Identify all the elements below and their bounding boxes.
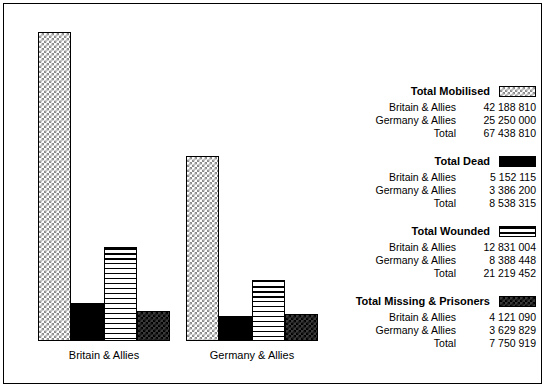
legend-block-total-wounded: Total Wounded Britain & Allies 12 831 00… — [356, 224, 536, 280]
solid-black-swatch — [499, 156, 536, 167]
legend-row-label: Total — [434, 267, 456, 280]
bar-chart-plot-area: Britain & Allies Germany & Allies — [4, 4, 344, 389]
legend-row-label: Britain & Allies — [389, 101, 456, 114]
light-checker-swatch — [499, 86, 536, 97]
legend-row-value: 8 388 448 — [456, 254, 536, 267]
legend-row-label: Britain & Allies — [389, 241, 456, 254]
legend-title: Total Wounded — [412, 225, 490, 237]
legend-row-value: 21 219 452 — [456, 267, 536, 280]
legend-row-label: Germany & Allies — [375, 114, 456, 127]
legend-row-label: Total — [434, 197, 456, 210]
bar-britain-total-wounded — [104, 247, 137, 341]
bar-germany-total-missing-prisoners — [285, 314, 318, 341]
legend-row-label: Total — [434, 337, 456, 350]
legend-row: Germany & Allies 8 388 448 — [356, 254, 536, 267]
legend-row-value: 8 538 315 — [456, 197, 536, 210]
legend-title: Total Mobilised — [411, 85, 490, 97]
legend-row-value: 3 386 200 — [456, 184, 536, 197]
legend-title: Total Missing & Prisoners — [356, 295, 490, 307]
legend-row: Germany & Allies 3 629 829 — [356, 324, 536, 337]
legend-row-label: Germany & Allies — [375, 184, 456, 197]
dark-checker-swatch — [499, 296, 536, 307]
legend-row-value: 3 629 829 — [456, 324, 536, 337]
legend-row: Germany & Allies 3 386 200 — [356, 184, 536, 197]
bar-germany-total-wounded — [252, 280, 285, 341]
legend-header: Total Mobilised — [356, 84, 536, 98]
chart-frame: Britain & Allies Germany & Allies Total … — [3, 3, 542, 384]
legend-row: Britain & Allies 42 188 810 — [356, 101, 536, 114]
legend-row-label: Germany & Allies — [375, 254, 456, 267]
legend-row: Total 21 219 452 — [356, 267, 536, 280]
bar-germany-total-dead — [219, 316, 252, 341]
legend-title: Total Dead — [435, 155, 490, 167]
legend-row-value: 67 438 810 — [456, 127, 536, 140]
legend-row-label: Britain & Allies — [389, 171, 456, 184]
legend-row-label: Total — [434, 127, 456, 140]
legend-row-value: 12 831 004 — [456, 241, 536, 254]
legend-row: Britain & Allies 4 121 090 — [356, 311, 536, 324]
legend-header: Total Missing & Prisoners — [356, 294, 536, 308]
bar-britain-total-dead — [71, 303, 104, 341]
legend-header: Total Dead — [356, 154, 536, 168]
legend-block-total-dead: Total Dead Britain & Allies 5 152 115 Ge… — [356, 154, 536, 210]
legend-row-value: 7 750 919 — [456, 337, 536, 350]
legend-block-total-mobilised: Total Mobilised Britain & Allies 42 188 … — [356, 84, 536, 140]
x-axis-label-britain: Britain & Allies — [34, 349, 174, 361]
legend-row: Germany & Allies 25 250 000 — [356, 114, 536, 127]
legend-row: Britain & Allies 12 831 004 — [356, 241, 536, 254]
bar-britain-total-mobilised — [38, 32, 71, 341]
legend-row: Britain & Allies 5 152 115 — [356, 171, 536, 184]
legend-row: Total 8 538 315 — [356, 197, 536, 210]
legend-row-value: 5 152 115 — [456, 171, 536, 184]
bar-britain-total-missing-prisoners — [137, 311, 170, 341]
legend-header: Total Wounded — [356, 224, 536, 238]
legend-row-value: 25 250 000 — [456, 114, 536, 127]
legend-row-value: 42 188 810 — [456, 101, 536, 114]
chart-legend: Total Mobilised Britain & Allies 42 188 … — [356, 84, 536, 364]
horizontal-stripes-swatch — [499, 226, 536, 237]
legend-row: Total 67 438 810 — [356, 127, 536, 140]
legend-row-value: 4 121 090 — [456, 311, 536, 324]
legend-row-label: Germany & Allies — [375, 324, 456, 337]
bar-germany-total-mobilised — [186, 156, 219, 341]
legend-row-label: Britain & Allies — [389, 311, 456, 324]
legend-block-total-missing-prisoners: Total Missing & Prisoners Britain & Alli… — [356, 294, 536, 350]
legend-row: Total 7 750 919 — [356, 337, 536, 350]
x-axis-label-germany: Germany & Allies — [182, 349, 322, 361]
